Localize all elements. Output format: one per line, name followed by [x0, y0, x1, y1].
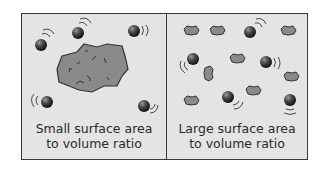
- large-solid-chunk: [57, 44, 128, 92]
- caption-right-line2: to volume ratio: [167, 136, 307, 151]
- caption-left-line2: to volume ratio: [22, 136, 166, 151]
- diagram-frame: Small surface area to volume ratio: [21, 13, 308, 160]
- panel-small-surface-area: Small surface area to volume ratio: [22, 14, 167, 159]
- caption-left: Small surface area to volume ratio: [22, 121, 166, 151]
- panel-large-surface-area: Large surface area to volume ratio: [167, 14, 307, 159]
- caption-left-line1: Small surface area: [22, 121, 166, 136]
- caption-right-line1: Large surface area: [167, 121, 307, 136]
- small-solid-chunks: [184, 26, 299, 105]
- caption-right: Large surface area to volume ratio: [167, 121, 307, 151]
